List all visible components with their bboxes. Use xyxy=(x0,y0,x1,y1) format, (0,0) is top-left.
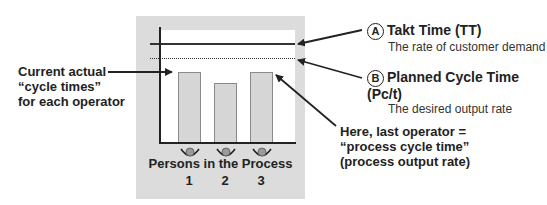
marker-a-icon: A xyxy=(367,23,384,40)
left-annotation-line1: Current actual xyxy=(18,64,125,79)
planned-cycle-time-annotation: BPlanned Cycle Time (Pc/t) The desired o… xyxy=(367,70,547,116)
takt-arrow xyxy=(298,30,362,44)
last-operator-line2: “process cycle time” xyxy=(340,139,470,154)
takt-time-title: Takt Time (TT) xyxy=(387,22,481,38)
takt-time-subtitle: The rate of customer demand xyxy=(388,40,545,54)
pct-arrow xyxy=(298,60,362,78)
last-operator-arrow xyxy=(276,75,336,126)
left-annotation: Current actual “cycle times” for each op… xyxy=(18,64,125,109)
planned-cycle-time-title: Planned Cycle Time (Pc/t) xyxy=(367,69,519,102)
marker-b-icon: B xyxy=(367,70,384,87)
last-operator-line3: (process output rate) xyxy=(340,154,470,169)
takt-time-annotation: ATakt Time (TT) The rate of customer dem… xyxy=(367,23,545,54)
left-annotation-line2: “cycle times” xyxy=(18,79,125,94)
planned-cycle-time-subtitle: The desired output rate xyxy=(388,102,547,116)
last-operator-annotation: Here, last operator = “process cycle tim… xyxy=(340,124,470,169)
last-operator-line1: Here, last operator = xyxy=(340,124,470,139)
left-annotation-line3: for each operator xyxy=(18,94,125,109)
